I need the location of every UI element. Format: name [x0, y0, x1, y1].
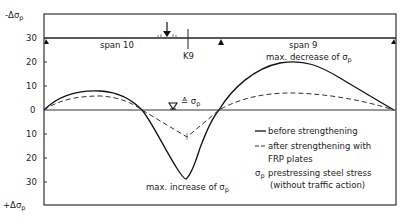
- y-tick-20-bottom: 20: [26, 153, 37, 163]
- y-tick-10-top: 10: [26, 81, 37, 91]
- legend-sigma-desc2: (without traffic action): [270, 180, 365, 190]
- legend-before-label: before strengthening: [268, 126, 358, 136]
- support-middle-icon: [218, 39, 224, 45]
- max-decrease-label: max. decrease of σp: [266, 52, 352, 64]
- span-10-label: span 10: [100, 40, 134, 50]
- legend: before strengthening after strengthening…: [255, 126, 372, 190]
- y-label-top: -Δσp: [5, 10, 23, 22]
- y-tick-30-bottom: 30: [26, 177, 37, 187]
- legend-frp-label: FRP plates: [268, 154, 313, 164]
- y-tick-0: 0: [30, 105, 35, 115]
- y-tick-20-top: 20: [26, 57, 37, 67]
- max-increase-label: max. increase of σp: [146, 182, 229, 194]
- legend-sigma-desc: prestressing steel stress: [268, 168, 372, 178]
- y-tick-10-bottom: 10: [26, 129, 37, 139]
- zero-marker-label: ≙ σp: [181, 96, 200, 108]
- y-label-bottom: +Δσp: [3, 200, 25, 212]
- span-9-label: span 9: [289, 40, 318, 50]
- legend-sigma-symbol: σp: [255, 168, 265, 180]
- section-k9-label: K9: [183, 51, 194, 61]
- legend-after-label: after strengthening with: [268, 141, 371, 151]
- support-right-icon: [391, 39, 396, 44]
- support-left-icon: [44, 39, 49, 44]
- y-tick-30-top: 30: [26, 33, 37, 43]
- load-arrow-icon: [158, 22, 176, 37]
- zero-marker-icon: [169, 103, 177, 109]
- stress-chart: -Δσp 30 20 10 0 10 20 30 +Δσp K9 span 10…: [0, 0, 417, 222]
- series-before-strengthening: [44, 62, 394, 179]
